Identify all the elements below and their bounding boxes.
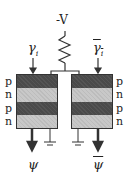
output-arrow-left-icon <box>28 129 36 150</box>
gamma-symbol: γ <box>28 40 36 55</box>
resistor-icon <box>51 31 79 74</box>
layer-n <box>17 88 57 101</box>
output-arrow-right-icon <box>94 129 102 150</box>
ground-right-icon <box>72 128 84 145</box>
output-label-right: ψ <box>93 158 103 171</box>
gamma-bar-symbol: γ <box>93 40 101 55</box>
ground-left-icon <box>44 128 56 145</box>
output-label-left: ψ <box>28 158 38 171</box>
input-arrow-right-icon <box>95 58 101 73</box>
input-label-left: γi <box>28 41 38 60</box>
right-layer-label-1: n <box>116 89 123 100</box>
layer-n <box>72 88 112 101</box>
supply-voltage-label: -V <box>56 14 68 26</box>
layer-n <box>17 115 57 128</box>
input-arrow-left-icon <box>30 58 36 73</box>
layer-n <box>72 115 112 128</box>
layer-p <box>72 75 112 88</box>
input-label-right: γi <box>93 41 103 60</box>
layer-p <box>17 75 57 88</box>
left-layer-label-3: n <box>5 116 12 127</box>
right-layer-label-3: n <box>116 116 123 127</box>
left-pnpn-stack <box>16 74 58 129</box>
left-layer-label-1: n <box>5 89 12 100</box>
left-layer-label-2: p <box>5 103 12 114</box>
right-layer-label-2: p <box>116 103 123 114</box>
left-layer-label-0: p <box>5 76 12 87</box>
right-pnpn-stack <box>71 74 113 129</box>
layer-p <box>72 102 112 115</box>
right-layer-label-0: p <box>116 76 123 87</box>
layer-p <box>17 102 57 115</box>
subscript: i <box>36 49 39 58</box>
subscript: i <box>101 49 104 58</box>
